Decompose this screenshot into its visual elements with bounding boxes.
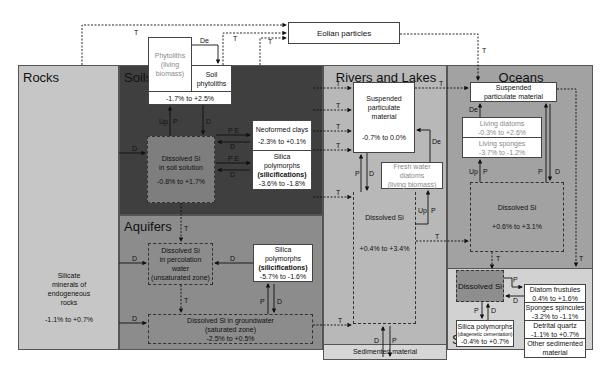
label-D-silica: D bbox=[230, 171, 235, 178]
detrital-quartz-box: Detrital quartz -1.1% to +0.7% bbox=[524, 320, 586, 339]
soil-silica-polymorphs-box: Silica polymorphs (silicifications) -3.6… bbox=[252, 150, 312, 190]
label-P-soil: P bbox=[173, 118, 178, 125]
label-T-river-ocean-2: T bbox=[435, 233, 439, 240]
label-T-rocks-eolian: T bbox=[134, 29, 138, 36]
freshwater-diatoms-box: Fresh water diatoms (living biomass) bbox=[381, 162, 443, 189]
diatom-frustules-box: Diatom frustules 0.4% to +1.6% bbox=[524, 284, 586, 303]
ocean-dissolved-si-box: Dissolved Si +0.6% to +3.1% bbox=[470, 182, 564, 252]
label-De-river: De bbox=[432, 138, 441, 145]
percolation-water-box: Dissolved Si in percolation water (unsat… bbox=[148, 243, 213, 285]
label-T-river-3: T bbox=[336, 123, 340, 130]
label-P-river: P bbox=[355, 170, 360, 177]
label-P-sediment-river: P bbox=[392, 337, 397, 344]
label-D-sediment: D bbox=[513, 297, 518, 304]
phytoliths-living-box: Phytoliths (living biomass) bbox=[148, 37, 192, 92]
rocks-content: Silicate minerals of endogeneous rocks -… bbox=[19, 271, 119, 324]
living-diatoms-box: Living diatoms -0.3% to +2.6% bbox=[462, 117, 542, 138]
other-sedimented-box: Other sedimented material bbox=[524, 338, 586, 358]
label-P-ocean: P bbox=[483, 168, 488, 175]
label-PE-clays: P E bbox=[228, 127, 239, 134]
label-De-phyto: De bbox=[200, 37, 209, 44]
label-T-soil-aquifer: T bbox=[184, 225, 188, 232]
label-D-rocks-groundwater: D bbox=[132, 315, 137, 322]
label-T-percolation-groundwater: T bbox=[184, 297, 188, 304]
label-T-eolian-ocean: T bbox=[482, 47, 486, 54]
label-D-rocks-percolation: D bbox=[132, 255, 137, 262]
label-D-river: D bbox=[369, 170, 374, 177]
dissolved-soil-range: -0.8% to +1.7% bbox=[157, 177, 205, 186]
label-D-aquifer-silica: D bbox=[230, 255, 235, 262]
region-title-rocks: Rocks bbox=[23, 70, 59, 85]
label-T-river-2: T bbox=[336, 102, 340, 109]
soil-phytoliths-box: Soil phytoliths bbox=[191, 65, 232, 92]
phytoliths-range-box: -1.7% to +2.5% bbox=[148, 91, 232, 105]
ocean-suspended-box: Suspended particulate material bbox=[470, 82, 557, 102]
sediment-silica-polymorphs-box: Silica polymorphs (diagenetic cementatio… bbox=[456, 320, 514, 347]
living-sponges-box: Living sponges -3.7% to -1.2% bbox=[462, 137, 542, 158]
sediment-dissolved-si-box: Dissolved Si bbox=[456, 270, 504, 302]
label-D-sediment-2: D bbox=[491, 307, 496, 314]
label-Up-river: Up bbox=[418, 207, 427, 214]
dissolved-si-soil-box: Dissolved Si in soil solution -0.8% to +… bbox=[147, 136, 215, 203]
label-T-river-6: T bbox=[338, 317, 342, 324]
label-Up-soil: Up bbox=[159, 118, 168, 125]
label-T-river-1: T bbox=[336, 80, 340, 87]
eolian-particles-box: Eolian particles bbox=[288, 22, 400, 44]
label-D-aquifer: D bbox=[277, 298, 282, 305]
label-P-sediment-2: P bbox=[474, 307, 479, 314]
aquifer-silica-polymorphs-box: Silica polymorphs (silicifications) -5.7… bbox=[253, 244, 313, 282]
label-De-ocean: De bbox=[469, 106, 478, 113]
label-D-ocean: D bbox=[555, 168, 560, 175]
sponges-spicules-box: Sponges spincules -3.2% to -1.1% bbox=[524, 302, 586, 321]
label-P-ocean-2: P bbox=[538, 168, 543, 175]
river-suspended-box: Suspended particulate material -0.7% to … bbox=[353, 82, 415, 153]
groundwater-box: Dissolved Si in groundwater (saturated z… bbox=[148, 314, 313, 344]
label-PE-silica: P E bbox=[228, 155, 239, 162]
label-T-river-4: T bbox=[336, 142, 340, 149]
label-T-soil-eolian: T bbox=[233, 35, 237, 42]
region-rocks: Rocks Silicate minerals of endogeneous r… bbox=[18, 65, 119, 350]
label-D-clays: D bbox=[230, 143, 235, 150]
sedimented-material-label: Sedimented material bbox=[353, 348, 417, 355]
label-D-sediment-river: D bbox=[374, 337, 379, 344]
label-T-soil-eolian-2: T bbox=[268, 38, 272, 45]
label-T-river-5: T bbox=[336, 189, 340, 196]
neoformed-clays-box: Neoformed clays -2.3% to +0.1% bbox=[252, 120, 312, 151]
label-T-ocean-sediment: T bbox=[496, 255, 500, 262]
label-P-sediment: P bbox=[513, 276, 518, 283]
rivers-sedimented-band: Sedimented material bbox=[323, 344, 447, 360]
label-T-ocean-sediment-2: T bbox=[579, 255, 583, 262]
label-D-soil: D bbox=[206, 118, 211, 125]
region-title-aquifers: Aquifers bbox=[124, 219, 172, 234]
label-D-rocks-soil: D bbox=[132, 145, 137, 152]
label-P-river-2: P bbox=[431, 207, 436, 214]
label-Up-ocean: Up bbox=[469, 168, 478, 175]
label-P-aquifer: P bbox=[260, 298, 265, 305]
river-dissolved-si-box: Dissolved Si +0.4% to +3.4% bbox=[353, 192, 416, 324]
label-T-river-ocean: T bbox=[439, 80, 443, 87]
rocks-range: -1.1% to +0.7% bbox=[19, 315, 119, 324]
